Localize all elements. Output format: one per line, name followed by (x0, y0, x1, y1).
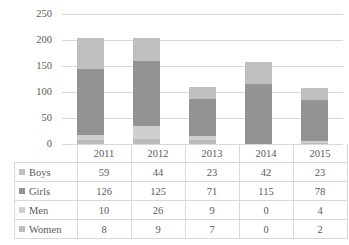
table-column-header-2011: 2011 (77, 144, 131, 163)
legend-entry-girls[interactable]: Girls (15, 182, 78, 201)
table-cell-women-2013: 7 (185, 220, 239, 239)
table-cell-men-2015: 4 (293, 201, 347, 220)
bar-segment-boys[interactable] (189, 87, 216, 99)
stacked-bar[interactable] (301, 88, 328, 144)
bar-slot (118, 14, 174, 144)
table-cell-boys-2012: 44 (131, 163, 185, 182)
legend-swatch-icon (19, 188, 25, 194)
legend-swatch-icon (19, 226, 25, 232)
table-cell-girls-2015: 78 (293, 182, 347, 201)
bar-slot (62, 14, 118, 144)
bar-slot (231, 14, 287, 144)
legend-swatch-icon (19, 169, 25, 175)
stacked-bar[interactable] (133, 38, 160, 144)
stacked-bar[interactable] (189, 87, 216, 144)
table-column-header-2015: 2015 (293, 144, 347, 163)
table-cell-girls-2014: 115 (239, 182, 293, 201)
legend-entry-men[interactable]: Men (15, 201, 78, 220)
table-header-row: 20112012201320142015 (15, 144, 348, 163)
bar-segment-men[interactable] (133, 126, 160, 140)
table-cell-boys-2011: 59 (77, 163, 131, 182)
table-column-header-2013: 2013 (185, 144, 239, 163)
y-axis-tick-label: 100 (0, 87, 52, 97)
legend-label: Boys (29, 167, 51, 178)
table-cell-men-2012: 26 (131, 201, 185, 220)
legend-swatch-icon (19, 207, 25, 213)
table-cell-women-2011: 8 (77, 220, 131, 239)
stacked-column-chart-with-data-table: 050100150200250 20112012201320142015Boys… (0, 0, 349, 245)
bar-segment-boys[interactable] (133, 38, 160, 61)
bar-segment-girls[interactable] (189, 99, 216, 136)
bar-segment-boys[interactable] (301, 88, 328, 100)
legend-label: Men (29, 205, 48, 216)
table-column-header-2012: 2012 (131, 144, 185, 163)
table-cell-men-2014: 0 (239, 201, 293, 220)
y-axis-tick-label: 250 (0, 9, 52, 19)
y-axis-tick-label: 200 (0, 35, 52, 45)
bar-slot (174, 14, 230, 144)
table-cell-girls-2011: 126 (77, 182, 131, 201)
bar-segment-girls[interactable] (301, 100, 328, 141)
table-cell-women-2015: 2 (293, 220, 347, 239)
bar-segment-girls[interactable] (77, 69, 104, 135)
table-cell-women-2014: 0 (239, 220, 293, 239)
table-cell-boys-2015: 23 (293, 163, 347, 182)
legend-entry-women[interactable]: Women (15, 220, 78, 239)
table-column-header-2014: 2014 (239, 144, 293, 163)
table-row: Women89702 (15, 220, 348, 239)
table-cell-men-2013: 9 (185, 201, 239, 220)
legend-label: Women (29, 224, 61, 235)
table-cell-boys-2014: 42 (239, 163, 293, 182)
bar-series-group (62, 14, 343, 144)
table-row: Boys5944234223 (15, 163, 348, 182)
table-cell-men-2011: 10 (77, 201, 131, 220)
table-cell-women-2012: 9 (131, 220, 185, 239)
y-axis-tick-label: 150 (0, 61, 52, 71)
bar-segment-girls[interactable] (245, 84, 272, 144)
chart-data-table: 20112012201320142015Boys5944234223Girls1… (14, 144, 348, 239)
stacked-bar[interactable] (245, 62, 272, 144)
bar-segment-girls[interactable] (133, 61, 160, 126)
table-cell-girls-2013: 71 (185, 182, 239, 201)
table-row: Men1026904 (15, 201, 348, 220)
stacked-bar[interactable] (77, 38, 104, 144)
table-cell-girls-2012: 125 (131, 182, 185, 201)
bar-slot (287, 14, 343, 144)
table-corner-cell (15, 144, 78, 163)
y-axis-tick-label: 50 (0, 113, 52, 123)
plot-area: 050100150200250 (62, 14, 343, 144)
bar-segment-boys[interactable] (77, 38, 104, 69)
legend-entry-boys[interactable]: Boys (15, 163, 78, 182)
legend-label: Girls (29, 186, 50, 197)
bar-segment-boys[interactable] (245, 62, 272, 84)
table-row: Girls1261257111578 (15, 182, 348, 201)
table-cell-boys-2013: 23 (185, 163, 239, 182)
